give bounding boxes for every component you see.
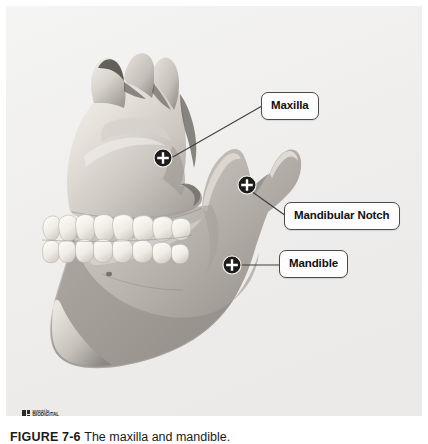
figure-page: powered by BIODIGITAL Maxilla Mandibular… [0, 0, 428, 444]
biodigital-squares-logo [22, 410, 30, 416]
callout-label-maxilla[interactable]: Maxilla [261, 92, 319, 120]
figure-caption-number: FIGURE 7-6 [10, 430, 81, 444]
callout-label-mandibular-notch[interactable]: Mandibular Notch [284, 202, 400, 230]
biodigital-logo-watermark: powered by BIODIGITAL [22, 410, 59, 416]
callout-label-mandible[interactable]: Mandible [279, 250, 348, 278]
marker-mandibular-notch [238, 176, 257, 195]
upper-teeth [43, 215, 191, 242]
logo-brand-name: BIODIGITAL [33, 413, 60, 416]
figure-caption-text: The maxilla and mandible. [84, 430, 230, 444]
marker-maxilla [154, 149, 173, 168]
marker-mandible [223, 256, 242, 275]
logo-text-block: powered by BIODIGITAL [33, 410, 60, 416]
lower-teeth [43, 239, 189, 263]
callout-text-mandible: Mandible [289, 258, 338, 270]
callout-text-maxilla: Maxilla [271, 100, 309, 112]
teeth-group [42, 215, 192, 264]
mental-foramen [106, 272, 112, 277]
figure-caption: FIGURE 7-6 The maxilla and mandible. [10, 430, 422, 444]
callout-text-mandibular-notch: Mandibular Notch [294, 210, 390, 222]
